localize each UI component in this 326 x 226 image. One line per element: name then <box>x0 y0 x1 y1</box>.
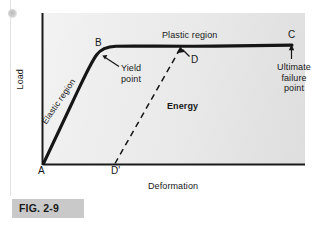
yield-point-label-line1: Yield <box>121 63 141 73</box>
y-axis-label: Load <box>15 56 26 102</box>
point-label-c: C <box>288 30 295 41</box>
ultimate-failure-label-line2: failure <box>281 73 306 83</box>
plastic-region-label: Plastic region <box>162 30 217 41</box>
point-label-d: D <box>191 55 198 66</box>
yield-point-label: Yield point <box>121 63 155 84</box>
yield-point-label-line2: point <box>121 74 141 84</box>
x-axis-label: Deformation <box>148 181 198 192</box>
ultimate-failure-label-line3: point <box>284 83 304 93</box>
point-label-a: A <box>38 166 45 177</box>
energy-label: Energy <box>167 101 198 112</box>
ultimate-failure-label-line1: Ultimate <box>277 62 311 72</box>
point-d-leader-line <box>183 50 190 57</box>
point-label-d-prime: D' <box>111 166 120 177</box>
point-label-b: B <box>95 38 102 49</box>
figure-container: Load Deformation Elastic region Plastic … <box>0 0 326 226</box>
figure-caption-text: FIG. 2-9 <box>19 202 59 214</box>
ultimate-failure-point-label: Ultimate failure point <box>265 62 323 94</box>
yield-point-leader-line <box>105 57 120 67</box>
